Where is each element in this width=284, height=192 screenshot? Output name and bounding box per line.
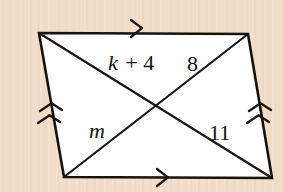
label-m: m	[89, 118, 105, 143]
label-k-plus-4: k + 4	[108, 50, 154, 75]
label-eight: 8	[187, 51, 198, 76]
label-k-variable: k	[108, 50, 119, 75]
parallelogram-diagram: k + 4 8 m 11	[0, 0, 284, 192]
label-plus-four: + 4	[120, 50, 154, 75]
label-eleven: 11	[209, 120, 230, 145]
geometry-figure: k + 4 8 m 11	[0, 0, 284, 192]
